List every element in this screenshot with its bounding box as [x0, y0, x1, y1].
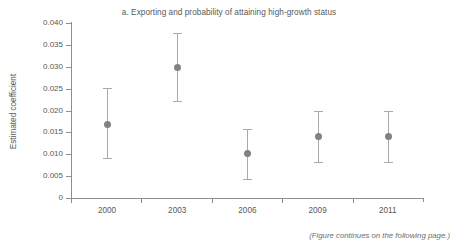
error-bar-cap-lower [103, 158, 112, 159]
error-bar-cap-lower [314, 162, 323, 163]
x-axis-tick-label: 2011 [360, 206, 416, 215]
error-bar-cap-upper [243, 129, 252, 130]
y-axis-tick [66, 45, 71, 46]
y-axis-tick-label: 0.040 [3, 18, 63, 27]
x-axis-tick-label: 2006 [219, 206, 275, 215]
y-axis-tick [66, 23, 71, 24]
x-axis-tick [282, 198, 283, 203]
x-axis-line [71, 198, 423, 199]
y-axis-tick-label: 0.005 [3, 171, 63, 180]
figure-continuation-note: (Figure continues on the following page.… [309, 231, 450, 240]
error-bar-cap-upper [103, 88, 112, 89]
error-bar-cap-upper [173, 33, 182, 34]
y-axis-tick [66, 176, 71, 177]
x-axis-tick [353, 198, 354, 203]
x-axis-tick-label: 2009 [290, 206, 346, 215]
x-axis-tick-label: 2003 [149, 206, 205, 215]
y-axis-tick-label: 0.010 [3, 149, 63, 158]
data-point-marker [244, 150, 251, 157]
error-bar-cap-lower [173, 101, 182, 102]
y-axis-tick-label: 0.030 [3, 62, 63, 71]
y-axis-tick [66, 154, 71, 155]
y-axis-tick-label: 0.015 [3, 127, 63, 136]
data-point-marker [104, 121, 111, 128]
y-axis-tick-label: 0.025 [3, 84, 63, 93]
y-axis-tick-label: 0.020 [3, 106, 63, 115]
y-axis-line [71, 22, 72, 199]
y-axis-tick [66, 132, 71, 133]
y-axis-tick-label: 0 [3, 193, 63, 202]
x-axis-tick [212, 198, 213, 203]
figure-panel: a. Exporting and probability of attainin… [0, 0, 458, 246]
error-bar-cap-upper [384, 111, 393, 112]
data-point-marker [174, 64, 181, 71]
x-axis-tick-label: 2000 [79, 206, 135, 215]
error-bar-cap-lower [384, 162, 393, 163]
error-bar-cap-upper [314, 111, 323, 112]
y-axis-tick-label: 0.035 [3, 40, 63, 49]
data-point-marker [315, 133, 322, 140]
error-bar-cap-lower [243, 179, 252, 180]
x-axis-tick [141, 198, 142, 203]
x-axis-tick [71, 198, 72, 203]
y-axis-tick [66, 67, 71, 68]
y-axis-tick [66, 111, 71, 112]
data-point-marker [385, 133, 392, 140]
chart-title: a. Exporting and probability of attainin… [0, 8, 458, 17]
y-axis-tick [66, 89, 71, 90]
x-axis-tick [423, 198, 424, 202]
